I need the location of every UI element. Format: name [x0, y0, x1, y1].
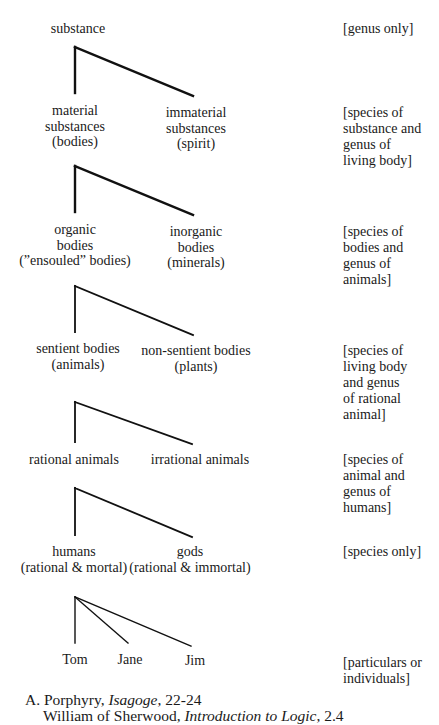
node-irrational-animals: irrational animals: [151, 452, 249, 468]
note-line: [species only]: [343, 544, 421, 560]
node-line: rational animals: [29, 452, 119, 468]
node-humans: humans (rational & mortal): [21, 544, 128, 575]
tree-branch-line: [75, 402, 192, 444]
node-individual-tom: Tom: [62, 652, 87, 668]
note-level-4: [species of animal and genus of humans]: [343, 452, 405, 516]
citation-work: Isagoge: [108, 691, 157, 708]
node-line: immaterial: [166, 105, 227, 121]
note-level-2: [species of bodies and genus of animals]: [343, 224, 403, 288]
node-line: sentient bodies: [36, 341, 120, 357]
node-line: substances: [45, 119, 105, 135]
node-line: (rational & mortal): [21, 560, 128, 576]
note-line: [species of: [343, 105, 421, 121]
note-genus-only: [genus only]: [343, 21, 413, 37]
note-level-1: [species of substance and genus of livin…: [343, 105, 421, 169]
note-line: animals]: [343, 272, 403, 288]
note-line: and genus: [343, 375, 407, 391]
tree-branch-line: [75, 166, 193, 215]
node-line: Jim: [185, 653, 205, 669]
tree-branch-line: [75, 47, 193, 96]
node-line: non-sentient bodies: [141, 343, 250, 359]
node-line: bodies: [167, 240, 225, 256]
note-line: substance and: [343, 121, 421, 137]
node-line: (”ensouled” bodies): [19, 253, 131, 269]
node-line: (bodies): [45, 134, 105, 150]
note-line: [species of: [343, 343, 407, 359]
node-line: (plants): [141, 359, 250, 375]
node-substance: substance: [51, 21, 105, 37]
node-line: substance: [51, 21, 105, 37]
tree-branch-line: [75, 286, 193, 335]
tree-branch-line: [75, 488, 192, 537]
node-sentient-bodies: sentient bodies (animals): [36, 341, 120, 372]
note-individuals: [particulars or individuals]: [343, 655, 422, 687]
citation-porphyry: A. Porphyry, Isagoge, 22-24: [25, 692, 201, 708]
node-line: gods: [129, 544, 250, 560]
node-material-substances: material substances (bodies): [45, 103, 105, 150]
note-line: genus of: [343, 256, 403, 272]
citation-pages: , 22-24: [157, 691, 201, 708]
node-line: (rational & immortal): [129, 560, 250, 576]
note-line: animal]: [343, 407, 407, 423]
node-line: (animals): [36, 357, 120, 373]
tree-branch-line: [75, 597, 128, 643]
note-line: genus of: [343, 137, 421, 153]
citation-pages: , 2.4: [316, 707, 343, 724]
note-line: genus of: [343, 484, 405, 500]
node-line: irrational animals: [151, 452, 249, 468]
note-level-3: [species of living body and genus of rat…: [343, 343, 407, 423]
note-line: individuals]: [343, 671, 422, 687]
note-line: animal and: [343, 468, 405, 484]
note-line: [species of: [343, 224, 403, 240]
node-gods: gods (rational & immortal): [129, 544, 250, 575]
node-line: inorganic: [167, 224, 225, 240]
citation-author: A. Porphyry,: [25, 691, 108, 708]
node-line: bodies: [19, 238, 131, 254]
node-line: material: [45, 103, 105, 119]
note-line: living body]: [343, 153, 421, 169]
note-line: [genus only]: [343, 21, 413, 37]
node-inorganic-bodies: inorganic bodies (minerals): [167, 224, 225, 271]
node-organic-bodies: organic bodies (”ensouled” bodies): [19, 222, 131, 269]
node-individual-jane: Jane: [118, 652, 143, 668]
node-line: substances: [166, 121, 227, 137]
note-line: living body: [343, 359, 407, 375]
node-immaterial-substances: immaterial substances (spirit): [166, 105, 227, 152]
citation-sherwood: William of Sherwood, Introduction to Log…: [43, 708, 344, 724]
node-line: Tom: [62, 652, 87, 668]
node-non-sentient-bodies: non-sentient bodies (plants): [141, 343, 250, 374]
tree-branch-line: [75, 597, 191, 646]
node-line: (spirit): [166, 136, 227, 152]
citation-author: William of Sherwood,: [43, 707, 184, 724]
node-individual-jim: Jim: [185, 653, 205, 669]
node-line: organic: [19, 222, 131, 238]
note-species-only: [species only]: [343, 544, 421, 560]
citation-work: Introduction to Logic: [184, 707, 316, 724]
note-line: [species of: [343, 452, 405, 468]
node-line: humans: [21, 544, 128, 560]
note-line: [particulars or: [343, 655, 422, 671]
note-line: bodies and: [343, 240, 403, 256]
node-rational-animals: rational animals: [29, 452, 119, 468]
note-line: of rational: [343, 391, 407, 407]
node-line: Jane: [118, 652, 143, 668]
node-line: (minerals): [167, 255, 225, 271]
note-line: humans]: [343, 500, 405, 516]
